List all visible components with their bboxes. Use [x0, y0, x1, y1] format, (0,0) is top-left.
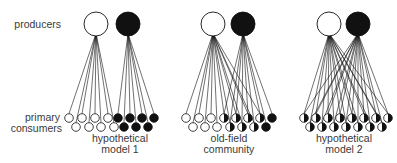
consumer-node-half-fill [260, 114, 264, 123]
producer-node-white [84, 12, 108, 36]
consumer-node-white [97, 123, 106, 132]
consumer-node-black [144, 123, 153, 132]
consumer-node-white [207, 114, 216, 123]
consumer-node-half-fill [364, 114, 368, 123]
consumer-node-half-fill [310, 123, 314, 132]
producer-node-black [346, 12, 370, 36]
consumer-node-half-fill [358, 123, 362, 132]
feeding-link [69, 35, 95, 114]
consumer-node-half-fill [346, 123, 350, 132]
feeding-link [96, 35, 101, 123]
caption-model-1-line2: model 1 [80, 144, 160, 155]
feeding-link [304, 35, 329, 114]
consumer-node-half-fill [382, 123, 386, 132]
consumer-node-black [150, 114, 159, 123]
caption-model-2-line2: model 2 [304, 144, 384, 155]
feeding-link [193, 35, 213, 123]
feeding-link [186, 35, 212, 114]
caption-old-field-line2: community [189, 144, 269, 155]
consumer-node-white [85, 123, 94, 132]
consumer-node-half-fill [254, 123, 258, 132]
consumer-node-white [72, 123, 81, 132]
consumer-node-half-fill [224, 114, 228, 123]
consumer-node-black [114, 114, 123, 123]
feeding-link [129, 35, 154, 114]
feeding-link [199, 35, 213, 114]
consumer-node-half-fill [334, 123, 338, 132]
consumer-node-half-fill [370, 123, 374, 132]
consumer-node-half-fill [230, 123, 234, 132]
consumer-node-half-fill [340, 114, 344, 123]
feeding-links [69, 35, 388, 123]
consumer-node-half-fill [242, 123, 246, 132]
producer-node-white [201, 12, 225, 36]
feeding-link [242, 35, 243, 123]
consumer-node-black [268, 114, 277, 123]
feeding-link [128, 35, 148, 123]
consumer-node-half-fill [322, 123, 326, 132]
consumer-node-half-fill [248, 114, 252, 123]
consumer-node-white [213, 123, 222, 132]
consumer-node-half-fill [304, 114, 308, 123]
consumer-node-white [104, 114, 113, 123]
consumer-node-half-fill [316, 114, 320, 123]
consumer-node-white [65, 114, 74, 123]
consumer-node-white [110, 123, 119, 132]
caption-old-field: old-field community [189, 133, 269, 155]
feeding-link [310, 35, 329, 123]
consumer-node-half-fill [388, 114, 392, 123]
feeding-link [128, 35, 142, 114]
consumer-node-white [91, 114, 100, 123]
producer-node-black [231, 12, 255, 36]
consumer-node-white [195, 114, 204, 123]
feeding-link [214, 35, 254, 123]
consumer-node-black [132, 123, 141, 132]
feeding-link [96, 35, 114, 123]
consumer-node-black [262, 123, 271, 132]
consumer-node-white [182, 114, 191, 123]
caption-model-1: hypothetical model 1 [80, 133, 160, 155]
consumer-node-black [120, 123, 129, 132]
consumer-node-half-fill [328, 114, 332, 123]
consumer-node-white [201, 123, 210, 132]
consumer-node-white [189, 123, 198, 132]
caption-model-2: hypothetical model 2 [304, 133, 384, 155]
consumer-node-black [138, 114, 147, 123]
consumer-node-black [126, 114, 135, 123]
feeding-link [82, 35, 96, 114]
feeding-link [213, 35, 236, 114]
producer-node-white [317, 12, 341, 36]
producer-node-black [116, 12, 140, 36]
feeding-link [243, 35, 266, 123]
consumer-node-white [78, 114, 87, 123]
